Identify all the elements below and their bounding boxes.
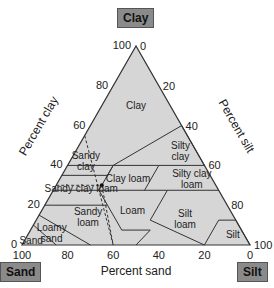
region-label-silty-clay: Silty: [171, 140, 190, 151]
region-label-clay-loam: Clay loam: [106, 173, 150, 184]
silt-tick-label: 20: [163, 80, 175, 92]
region-label-silt-loam: Silt: [178, 208, 192, 219]
region-label-silty-clay-loam: loam: [181, 179, 203, 190]
region-label-silt: Silt: [226, 229, 240, 240]
sand-tick-label: 0: [247, 249, 253, 261]
sand-tick-label: 40: [153, 249, 165, 261]
region-label-silty-clay-loam: Silty clay: [172, 168, 211, 179]
clay-tick-label: 40: [50, 158, 62, 170]
silt-tick-label: 0: [140, 40, 146, 52]
region-label-loamy-sand: Loamy: [37, 222, 67, 233]
region-label-silty-clay: clay: [172, 151, 190, 162]
region-label-clay: Clay: [126, 100, 146, 111]
sand-tick-label: 80: [61, 249, 73, 261]
region-label-loam: Loam: [120, 205, 145, 216]
clay-axis-title: Percent clay: [16, 94, 61, 158]
silt-tick-label: 100: [254, 239, 272, 251]
sand-axis-title: Percent sand: [101, 264, 172, 278]
silt-tick-label: 40: [186, 120, 198, 132]
region-label-sandy-loam: Sandy: [74, 206, 102, 217]
sand-tick-label: 60: [107, 249, 119, 261]
sand-tick-label: 20: [198, 249, 210, 261]
silt-axis-title: Percent silt: [216, 97, 258, 156]
sand-tick-label: 100: [13, 249, 31, 261]
clay-tick-label: 80: [96, 79, 108, 91]
silt-tick-label: 80: [231, 199, 243, 211]
region-label-sandy-clay-loam: Sandy clay loam: [45, 183, 118, 194]
soil-texture-triangle: 001002020804040606060408080201001000Perc…: [0, 0, 274, 288]
clay-tick-label: 20: [28, 198, 40, 210]
region-label-sand: Sand: [19, 235, 42, 246]
region-label-loamy-sand: sand: [41, 233, 63, 244]
clay-tick-label: 100: [113, 39, 131, 51]
clay-tick-label: 60: [73, 119, 85, 131]
region-label-sandy-loam: loam: [77, 217, 99, 228]
region-label-sandy-clay: clay: [77, 161, 95, 172]
region-label-silt-loam: loam: [174, 219, 196, 230]
region-label-sandy-clay: Sandy: [72, 150, 100, 161]
